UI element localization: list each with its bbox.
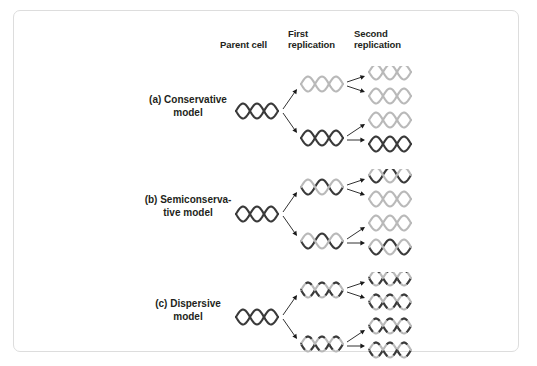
dna-helix-second-4 — [369, 137, 411, 152]
arrow-first-to-second-1-head — [360, 75, 365, 80]
dna-helix-second-2 — [369, 295, 411, 310]
arrow-parent-to-first-1-head — [292, 89, 297, 94]
arrow-first-to-second-4-head — [360, 241, 365, 246]
column-header-parent-cell: Parent cell — [220, 39, 284, 50]
arrow-first-to-second-1-head — [360, 281, 365, 286]
dna-helix-second-2 — [369, 192, 411, 207]
cropped-text-remnant: · · · · · · · · · · — [6, 0, 91, 3]
arrow-parent-to-first-1 — [283, 296, 296, 315]
dna-helix-second-2 — [369, 89, 411, 104]
arrow-parent-to-first-2-head — [292, 334, 297, 339]
dna-helix-second-1 — [369, 169, 411, 183]
dna-helix-second-4 — [369, 240, 411, 255]
dna-helix-first-2 — [301, 234, 343, 249]
dna-helix-first-2 — [301, 131, 343, 146]
dna-helix-first-1 — [301, 77, 343, 92]
figure-card: Parent cell Firstreplication Secondrepli… — [13, 10, 519, 352]
dna-helix-second-4 — [369, 343, 411, 358]
diagram-row-conservative — [227, 66, 437, 156]
diagram-row-dispersive — [227, 272, 437, 362]
dna-helix-first-2 — [301, 337, 343, 352]
dna-helix-second-1 — [369, 272, 411, 286]
dna-helix-parent — [236, 104, 278, 119]
arrow-first-to-second-2-head — [360, 294, 365, 299]
arrow-parent-to-first-1 — [283, 90, 296, 109]
dna-helix-first-1 — [301, 180, 343, 195]
arrow-first-to-second-2-head — [360, 88, 365, 93]
dna-helix-second-3 — [369, 113, 411, 128]
dna-helix-parent — [236, 207, 278, 222]
arrow-parent-to-first-2 — [283, 113, 296, 132]
column-header-first-replication: Firstreplication — [288, 28, 354, 50]
dna-helix-first-1 — [301, 283, 343, 298]
arrow-parent-to-first-1 — [283, 193, 296, 212]
arrow-parent-to-first-2-head — [292, 128, 297, 133]
arrow-first-to-second-2-head — [360, 191, 365, 196]
arrow-first-to-second-1-head — [360, 178, 365, 183]
dna-helix-second-3 — [369, 216, 411, 231]
arrow-parent-to-first-2 — [283, 216, 296, 235]
dna-helix-second-1 — [369, 66, 411, 80]
dna-helix-second-3 — [369, 319, 411, 334]
arrow-parent-to-first-2 — [283, 319, 296, 338]
arrow-first-to-second-3-head — [360, 227, 365, 232]
arrow-parent-to-first-1-head — [292, 192, 297, 197]
dna-helix-parent — [236, 310, 278, 325]
arrow-first-to-second-4-head — [360, 344, 365, 349]
diagram-row-semiconservative — [227, 169, 437, 259]
arrow-parent-to-first-2-head — [292, 231, 297, 236]
column-header-second-replication: Secondreplication — [354, 28, 426, 50]
arrow-first-to-second-4-head — [360, 138, 365, 143]
arrow-parent-to-first-1-head — [292, 295, 297, 300]
arrow-first-to-second-3-head — [360, 124, 365, 129]
arrow-first-to-second-3-head — [360, 330, 365, 335]
